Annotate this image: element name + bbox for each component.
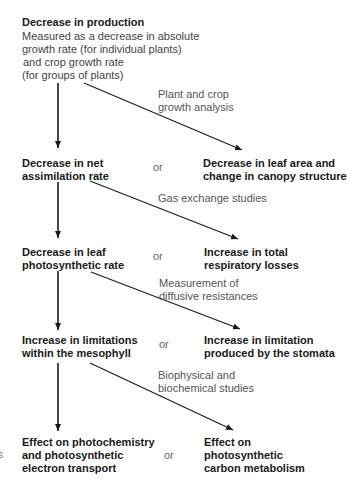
or-connector-1: or: [153, 161, 163, 174]
right-node-2: Increase in total: [204, 246, 288, 259]
right-node-4: carbon metabolism: [204, 462, 305, 475]
left-node-3: within the mesophyll: [22, 347, 131, 360]
method-label-3: diffusive resistances: [159, 290, 258, 303]
left-node-4: and photosynthetic: [22, 449, 123, 462]
right-node-1: change in canopy structure: [203, 170, 347, 183]
right-node-4: photosynthetic: [204, 449, 283, 462]
method-label-4: Biophysical and: [158, 369, 235, 382]
edge-fragment: s: [0, 448, 3, 461]
top-node-line: and crop growth rate: [23, 56, 124, 69]
left-node-2: photosynthetic rate: [22, 259, 124, 272]
left-node-1: Decrease in net: [22, 157, 103, 170]
right-node-4: Effect on: [204, 436, 251, 449]
left-node-2: Decrease in leaf: [22, 246, 106, 259]
right-node-1: Decrease in leaf area and: [203, 157, 335, 170]
top-node-line: Measured as a decrease in absolute: [22, 30, 199, 43]
method-label-1: Plant and crop: [158, 88, 229, 101]
or-connector-4: or: [164, 449, 174, 462]
left-node-3: Increase in limitations: [22, 334, 138, 347]
left-node-4: electron transport: [22, 462, 116, 475]
method-label-3: Measurement of: [159, 277, 238, 290]
right-node-2: respiratory losses: [204, 259, 299, 272]
left-node-4: Effect on photochemistry: [22, 436, 155, 449]
or-connector-2: or: [153, 250, 163, 263]
method-label-2: Gas exchange studies: [158, 192, 267, 205]
arrow-diagonal-2: [90, 181, 238, 239]
right-node-3: Increase in limitation: [204, 334, 313, 347]
top-node-line: (for groups of plants): [22, 69, 124, 82]
top-node-line: growth rate (for individual plants): [22, 43, 182, 56]
or-connector-3: or: [159, 338, 169, 351]
top-node-title: Decrease in production: [22, 16, 144, 29]
left-node-1: assimilation rate: [22, 170, 109, 183]
method-label-4: biochemical studies: [158, 382, 254, 395]
method-label-1: growth analysis: [158, 101, 234, 114]
right-node-3: produced by the stomata: [204, 347, 335, 360]
